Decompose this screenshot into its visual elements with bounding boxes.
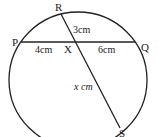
length-label-rx: 3cm [73,24,90,35]
point-label-r: R [55,1,63,13]
length-label-px: 4cm [35,44,52,55]
point-label-x: X [64,43,72,55]
circle-chords-diagram: R P X Q S 3cm 4cm 6cm x cm [0,0,159,137]
length-label-xs: x cm [73,81,93,92]
point-label-p: P [12,36,18,48]
point-label-q: Q [141,41,149,53]
chord-rs [61,14,120,128]
length-label-xq: 6cm [98,44,115,55]
point-label-s: S [119,127,125,137]
